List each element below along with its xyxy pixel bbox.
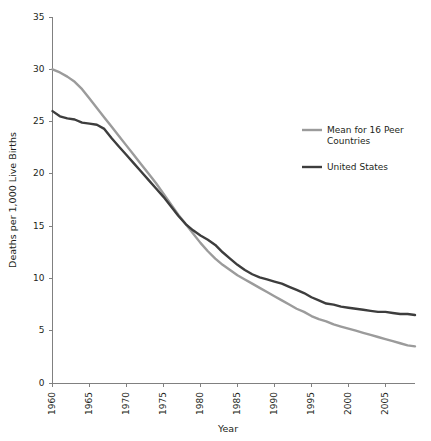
x-tick-label: 1995: [306, 392, 316, 415]
data-series-group: [53, 69, 416, 346]
y-tick-label: 25: [33, 116, 44, 126]
x-tick-label: 1970: [121, 392, 131, 415]
y-tick-label: 20: [33, 168, 45, 178]
chart-canvas: 05101520253035 1960196519701975198019851…: [0, 0, 431, 441]
x-tick-label: 1985: [232, 392, 242, 415]
y-axis-ticks: 05101520253035: [33, 12, 52, 388]
series-line-peer-mean: [53, 69, 416, 346]
x-axis-ticks: 1960196519701975198019851990199520002005: [47, 383, 390, 415]
x-tick-label: 1980: [195, 392, 205, 415]
legend-label: United States: [327, 162, 388, 172]
infant-mortality-line-chart: 05101520253035 1960196519701975198019851…: [0, 0, 431, 441]
y-tick-label: 10: [33, 273, 45, 283]
x-tick-label: 2005: [380, 392, 390, 415]
legend-label: Countries: [327, 136, 370, 146]
x-tick-label: 1990: [269, 392, 279, 415]
y-tick-label: 30: [33, 64, 45, 74]
x-tick-label: 1960: [47, 392, 57, 415]
x-tick-label: 2000: [343, 392, 353, 415]
x-axis-group: 1960196519701975198019851990199520002005: [47, 383, 415, 415]
y-axis-group: 05101520253035: [33, 12, 52, 388]
x-tick-label: 1965: [84, 392, 94, 415]
legend-label: Mean for 16 Peer: [327, 125, 404, 135]
y-tick-label: 35: [33, 12, 44, 22]
y-tick-label: 0: [39, 378, 45, 388]
x-axis-title: Year: [217, 423, 238, 434]
y-tick-label: 15: [33, 221, 44, 231]
x-tick-label: 1975: [158, 392, 168, 415]
y-tick-label: 5: [39, 325, 45, 335]
chart-legend: Mean for 16 PeerCountriesUnited States: [302, 125, 404, 172]
y-axis-title: Deaths per 1,000 Live Births: [7, 132, 18, 268]
